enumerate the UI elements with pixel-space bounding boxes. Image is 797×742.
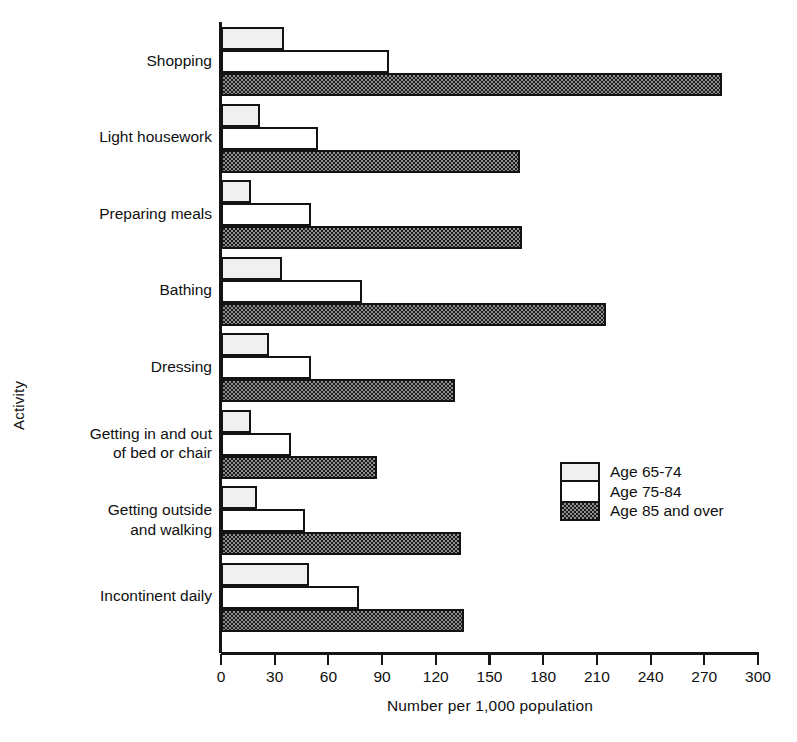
bar	[221, 257, 282, 280]
bar-chart: Activity ShoppingLight houseworkPreparin…	[0, 0, 797, 742]
x-axis-tick-label: 90	[373, 668, 390, 686]
legend-swatch-age-65-74-icon	[560, 462, 600, 482]
bar	[221, 563, 309, 586]
x-axis-tick	[220, 654, 222, 665]
bar	[221, 127, 318, 150]
x-axis-tick	[542, 654, 544, 665]
category-label: Getting outside and walking	[6, 500, 212, 539]
x-axis-title: Number per 1,000 population	[221, 697, 759, 715]
bar	[221, 104, 260, 127]
bar	[221, 226, 522, 249]
x-axis-tick	[327, 654, 329, 665]
bar	[221, 356, 311, 379]
x-axis-tick-label: 300	[745, 668, 771, 686]
bar	[221, 73, 722, 96]
bar	[221, 486, 257, 509]
legend-swatch-age-85-and-over-icon	[560, 501, 600, 521]
x-axis-tick	[757, 654, 759, 665]
category-label: Incontinent daily	[6, 586, 212, 606]
x-axis-tick	[274, 654, 276, 665]
bar	[221, 333, 269, 356]
legend-swatch-age-75-84-icon	[560, 482, 600, 502]
x-axis-tick-label: 240	[638, 668, 664, 686]
x-axis-tick	[488, 654, 490, 665]
bar	[221, 180, 251, 203]
category-label: Bathing	[6, 280, 212, 300]
bar	[221, 203, 311, 226]
x-axis-tick-label: 60	[320, 668, 337, 686]
bar	[221, 50, 389, 73]
bar	[221, 27, 284, 50]
bar	[221, 303, 606, 326]
x-axis-tick-label: 210	[584, 668, 610, 686]
x-axis-tick-label: 270	[691, 668, 717, 686]
bar	[221, 609, 464, 632]
bar	[221, 456, 377, 479]
bar	[221, 150, 520, 173]
x-axis-tick	[435, 654, 437, 665]
bar	[221, 509, 305, 532]
x-axis-tick	[703, 654, 705, 665]
category-label: Preparing meals	[6, 204, 212, 224]
category-label: Light housework	[6, 127, 212, 147]
legend-label: Age 65-74	[610, 463, 682, 481]
x-axis-tick-label: 180	[530, 668, 556, 686]
bar	[221, 532, 461, 555]
x-axis-tick-label: 0	[217, 668, 226, 686]
legend-label: Age 75-84	[610, 483, 682, 501]
x-axis-tick-label: 150	[477, 668, 503, 686]
bar	[221, 410, 251, 433]
x-axis-tick-label: 30	[266, 668, 283, 686]
category-label: Getting in and out of bed or chair	[6, 424, 212, 463]
bar	[221, 280, 362, 303]
x-axis-tick	[381, 654, 383, 665]
category-label: Shopping	[6, 51, 212, 71]
bar	[221, 379, 455, 402]
x-axis-tick	[650, 654, 652, 665]
bar	[221, 586, 359, 609]
legend-label: Age 85 and over	[610, 502, 724, 520]
category-label: Dressing	[6, 357, 212, 377]
bar	[221, 433, 291, 456]
x-axis-tick	[596, 654, 598, 665]
x-axis-tick-label: 120	[423, 668, 449, 686]
